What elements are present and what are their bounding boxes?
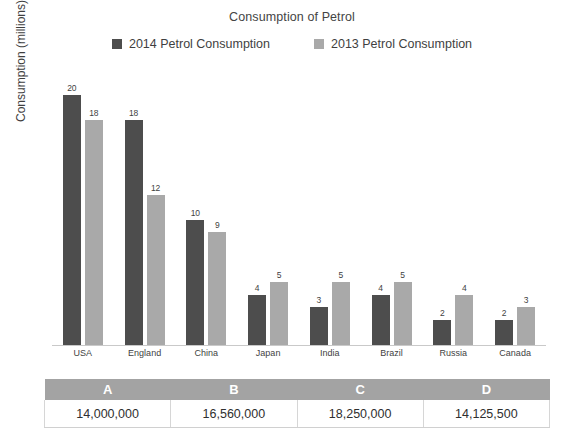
x-axis-tick-label: USA <box>52 348 114 358</box>
bar-column: 4 <box>248 70 266 345</box>
bar-column: 3 <box>310 70 328 345</box>
bar-column: 3 <box>517 70 535 345</box>
x-axis-tick-label: India <box>299 348 361 358</box>
bar <box>517 307 535 345</box>
bar-value-label: 9 <box>215 220 220 230</box>
bar-column: 18 <box>125 70 143 345</box>
legend-label-2013: 2013 Petrol Consumption <box>331 37 472 51</box>
bar-column: 20 <box>63 70 81 345</box>
chart-legend: 2014 Petrol Consumption 2013 Petrol Cons… <box>0 37 584 51</box>
answer-table-value-cell[interactable]: 14,000,000 <box>45 400 171 428</box>
bar-value-label: 3 <box>317 295 322 305</box>
bar-group: 2018 <box>52 70 114 345</box>
bar <box>186 220 204 345</box>
bar-column: 9 <box>208 70 226 345</box>
answer-table-value-cell[interactable]: 16,560,000 <box>171 400 297 428</box>
bar-group: 1812 <box>114 70 176 345</box>
bar-column: 18 <box>85 70 103 345</box>
bar <box>332 282 350 345</box>
x-axis-tick-label: England <box>114 348 176 358</box>
bar-value-label: 5 <box>339 270 344 280</box>
bar-column: 10 <box>186 70 204 345</box>
bar-value-label: 5 <box>277 270 282 280</box>
legend-entry-2014: 2014 Petrol Consumption <box>112 37 270 51</box>
bar-column: 5 <box>394 70 412 345</box>
bar-group: 109 <box>176 70 238 345</box>
bar <box>310 307 328 345</box>
legend-entry-2013: 2013 Petrol Consumption <box>314 37 472 51</box>
x-axis-tick-label: Brazil <box>361 348 423 358</box>
bar-value-label: 4 <box>255 283 260 293</box>
x-axis-tick-label: China <box>176 348 238 358</box>
answer-table-header-cell: B <box>171 379 297 400</box>
bar-value-label: 4 <box>462 283 467 293</box>
bar-group: 24 <box>423 70 485 345</box>
bar-value-label: 4 <box>378 283 383 293</box>
bar <box>433 320 451 345</box>
bar-value-label: 3 <box>524 295 529 305</box>
bar-value-label: 20 <box>67 83 76 93</box>
bar-column: 5 <box>332 70 350 345</box>
chart-title: Consumption of Petrol <box>0 10 584 24</box>
legend-swatch-icon-2014 <box>112 39 122 49</box>
y-axis-title: Consumption (millions) per day <box>14 108 28 122</box>
answer-table-header-cell: A <box>45 379 171 400</box>
bar-group: 45 <box>237 70 299 345</box>
bar-value-label: 2 <box>502 308 507 318</box>
legend-label-2014: 2014 Petrol Consumption <box>129 37 270 51</box>
bar-column: 12 <box>147 70 165 345</box>
bar-column: 4 <box>455 70 473 345</box>
bar <box>270 282 288 345</box>
bar <box>208 232 226 345</box>
answer-table-header-cell: D <box>423 379 549 400</box>
bar <box>394 282 412 345</box>
answer-table-header-cell: C <box>297 379 423 400</box>
answer-table-value-cell[interactable]: 18,250,000 <box>297 400 423 428</box>
answer-table-value-row: 14,000,00016,560,00018,250,00014,125,500 <box>45 400 550 428</box>
bar-group: 45 <box>361 70 423 345</box>
bar-value-label: 10 <box>191 208 200 218</box>
answer-table-header-row: ABCD <box>45 379 550 400</box>
bar-value-label: 2 <box>440 308 445 318</box>
bar-value-label: 12 <box>151 183 160 193</box>
x-axis-tick-label: Canada <box>484 348 546 358</box>
bar-column: 4 <box>372 70 390 345</box>
bar-value-label: 18 <box>89 108 98 118</box>
x-axis-tick-labels: USAEnglandChinaJapanIndiaBrazilRussiaCan… <box>52 348 546 358</box>
legend-swatch-icon-2013 <box>314 39 324 49</box>
bar <box>125 120 143 345</box>
bar <box>63 95 81 345</box>
bar <box>455 295 473 345</box>
plot-area: 201818121094535452423 <box>52 70 546 346</box>
bar-groups: 201818121094535452423 <box>52 70 546 345</box>
x-axis-tick-label: Russia <box>423 348 485 358</box>
bar <box>85 120 103 345</box>
bar-group: 23 <box>484 70 546 345</box>
bar-value-label: 5 <box>400 270 405 280</box>
answer-table: ABCD 14,000,00016,560,00018,250,00014,12… <box>44 379 550 428</box>
bar <box>248 295 266 345</box>
bar-column: 5 <box>270 70 288 345</box>
bar-group: 35 <box>299 70 361 345</box>
bar-value-label: 18 <box>129 108 138 118</box>
bar <box>147 195 165 345</box>
bar-column: 2 <box>433 70 451 345</box>
answer-table-value-cell[interactable]: 14,125,500 <box>423 400 549 428</box>
bar <box>495 320 513 345</box>
bar-column: 2 <box>495 70 513 345</box>
x-axis-tick-label: Japan <box>237 348 299 358</box>
bar <box>372 295 390 345</box>
x-axis-baseline <box>52 345 546 346</box>
